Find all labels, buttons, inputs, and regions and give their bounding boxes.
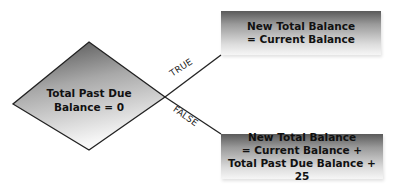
- decision-line-1: Total Past Due: [30, 86, 148, 100]
- false-result-line-1: New Total Balance: [248, 131, 356, 144]
- true-result-line-1: New Total Balance: [247, 20, 355, 33]
- false-result-box: New Total Balance = Current Balance + To…: [221, 134, 383, 179]
- false-result-line-2: = Current Balance +: [242, 144, 362, 157]
- true-result-line-2: = Current Balance: [247, 33, 355, 46]
- false-result-line-3: Total Past Due Balance + 25: [221, 157, 383, 183]
- decision-line-2: Balance = 0: [30, 100, 148, 114]
- decision-condition: Total Past Due Balance = 0: [30, 86, 148, 114]
- true-result-box: New Total Balance = Current Balance: [221, 11, 381, 55]
